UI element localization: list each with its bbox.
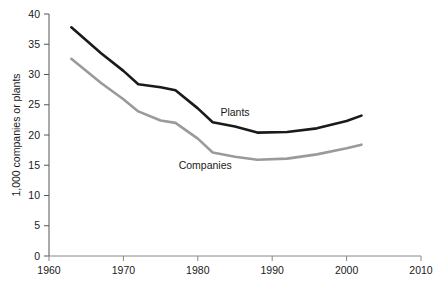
series-line-companies [71,59,361,160]
y-tick-label: 10 [28,189,40,201]
y-axis-ticks [44,14,49,256]
y-tick-label: 5 [34,219,40,231]
y-tick-label: 25 [28,98,40,110]
y-tick-label: 40 [28,8,40,20]
x-tick-label: 1960 [37,264,61,276]
y-axis-title: 1,000 companies or plants [10,73,22,196]
x-tick-label: 2010 [409,264,433,276]
series-label-companies: Companies [179,159,232,171]
x-axis-tick-labels: 196019701980199020002010 [37,264,433,276]
x-tick-label: 2000 [335,264,359,276]
y-tick-label: 30 [28,68,40,80]
series-label-plants: Plants [220,106,249,118]
series-annotations: PlantsCompanies [179,106,250,171]
y-tick-label: 0 [34,250,40,262]
y-tick-label: 20 [28,129,40,141]
x-tick-label: 1990 [261,264,285,276]
x-axis-ticks [49,256,421,261]
line-chart: 0510152025303540 19601970198019902000201… [0,0,435,289]
x-tick-label: 1980 [186,264,210,276]
y-tick-label: 15 [28,159,40,171]
y-tick-label: 35 [28,38,40,50]
series-lines [71,27,361,160]
plot-area [44,14,421,261]
chart-container: 0510152025303540 19601970198019902000201… [0,0,435,289]
x-tick-label: 1970 [112,264,136,276]
y-axis-tick-labels: 0510152025303540 [28,8,40,262]
series-line-plants [71,27,361,132]
